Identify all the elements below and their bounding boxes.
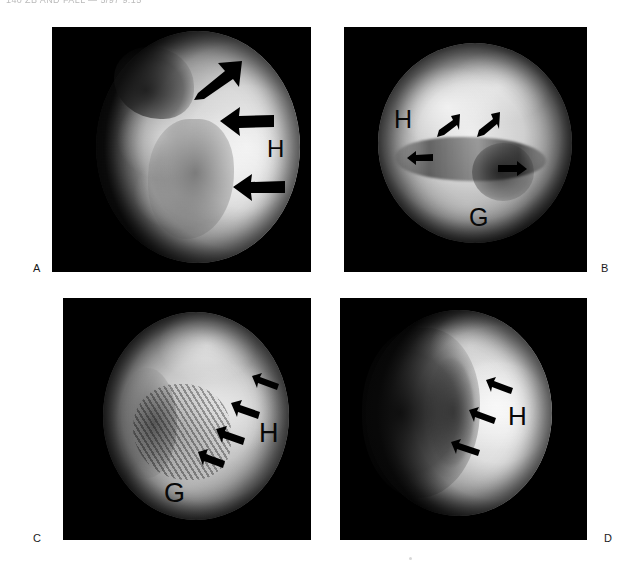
panel-c-edge-shadow (119, 368, 177, 478)
panel-b-arrow-1 (436, 113, 462, 139)
panel-d-arrow-3 (450, 438, 482, 458)
panel-c: H G (63, 298, 311, 540)
panel-letter-c: C (33, 532, 41, 544)
panel-d-label-h: H (508, 403, 527, 429)
panel-c-arrow-4 (197, 448, 227, 470)
panel-c-arrow-2 (230, 399, 262, 421)
panel-letter-d: D (604, 532, 612, 544)
panel-b-label-h: H (394, 107, 412, 132)
panel-b-arrow-3 (406, 149, 434, 167)
panel-b-arrow-2 (476, 111, 502, 139)
panel-letter-a: A (33, 262, 41, 274)
panel-a-arrow-3 (231, 172, 287, 202)
panel-b-arrow-4 (496, 159, 528, 177)
panel-letter-b: B (601, 262, 609, 274)
panel-c-arrow-3 (215, 425, 247, 447)
scan-speck (409, 557, 412, 560)
panel-a-arrow-1 (192, 59, 244, 103)
figure-container: H A (0, 0, 639, 568)
panel-c-label-g: G (164, 480, 185, 507)
panel-d-arrow-2 (468, 406, 498, 426)
panel-c-label-h: H (259, 420, 279, 447)
panel-d-arrow-1 (485, 376, 515, 396)
panel-c-arrow-1 (251, 372, 281, 392)
panel-a-arrow-2 (218, 105, 276, 137)
panel-a-label-h: H (267, 137, 284, 161)
panel-a: H (52, 27, 311, 272)
panel-b: H G (344, 27, 587, 272)
panel-b-label-g: G (469, 205, 488, 230)
panel-d: H (340, 298, 587, 540)
